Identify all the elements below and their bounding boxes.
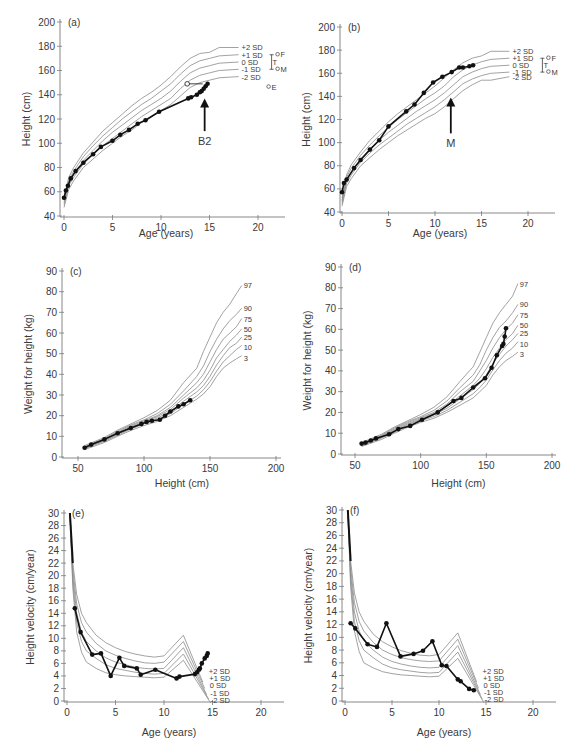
patient-data-point — [81, 160, 86, 165]
patient-data-point — [459, 396, 464, 401]
patient-data-point — [472, 688, 477, 693]
y-tick-label: 120 — [38, 114, 55, 125]
reference-curve — [362, 304, 518, 443]
reference-curve — [362, 315, 518, 444]
y-tick-label: 2 — [53, 683, 59, 694]
x-tick-label: 50 — [72, 463, 84, 474]
patient-data-point — [200, 661, 205, 666]
patient-data-point — [412, 102, 417, 107]
x-tick-label: 200 — [268, 463, 285, 474]
reference-curve — [342, 51, 509, 198]
y-tick-label: 80 — [44, 162, 56, 173]
reference-curve — [348, 510, 484, 703]
reference-curve — [64, 62, 239, 203]
reference-curve-label: -2 SD — [485, 695, 505, 704]
panel-letter: (c) — [70, 266, 82, 277]
patient-data-point — [139, 422, 144, 427]
x-tick-label: 5 — [113, 707, 119, 718]
patient-data-point — [449, 70, 454, 75]
reference-curve — [85, 286, 242, 446]
patient-growth-line — [351, 623, 474, 690]
patient-data-point — [168, 409, 173, 414]
y-tick-label: 60 — [324, 183, 336, 194]
patient-data-point — [135, 122, 140, 127]
patient-data-point — [483, 376, 488, 381]
expected-height-label: E — [272, 83, 277, 92]
x-tick-label: 100 — [136, 463, 153, 474]
patient-data-point — [422, 91, 427, 96]
patient-data-point — [369, 438, 374, 443]
patient-data-point — [188, 398, 193, 403]
patient-data-point — [82, 445, 87, 450]
y-tick-label: 70 — [325, 303, 337, 314]
patient-data-point — [78, 630, 83, 635]
patient-data-point — [421, 648, 426, 653]
y-tick-label: 2 — [331, 683, 337, 694]
reference-curve-label: 75 — [244, 315, 252, 324]
reference-curve — [362, 325, 518, 444]
x-tick-label: 0 — [339, 218, 345, 229]
y-axis-title: Height velocity (cm/year) — [302, 548, 314, 664]
y-axis-title: Weight for height (kg) — [22, 314, 34, 414]
patient-data-point — [489, 366, 494, 371]
patient-data-point — [358, 158, 363, 163]
y-tick-label: 80 — [324, 160, 336, 171]
y-tick-label: 22 — [48, 558, 60, 569]
reference-curve — [348, 510, 481, 695]
patient-data-point — [198, 666, 203, 671]
patient-data-point — [90, 652, 95, 657]
y-tick-label: 60 — [46, 328, 58, 339]
y-axis-title: Height velocity (cm/year) — [24, 549, 36, 665]
x-tick-label: 15 — [207, 707, 219, 718]
patient-data-point — [359, 441, 364, 446]
panel-letter: (f) — [350, 505, 359, 516]
x-tick-label: 20 — [527, 707, 539, 718]
patient-data-point — [352, 166, 357, 171]
father-label: F — [551, 54, 556, 63]
y-tick-label: 6 — [53, 658, 59, 669]
y-axis-title: Height (cm) — [20, 92, 32, 146]
patient-data-point — [471, 63, 476, 68]
y-tick-label: 12 — [48, 620, 60, 631]
y-tick-label: 60 — [44, 186, 56, 197]
mother-label: M — [281, 65, 287, 74]
patient-data-point — [163, 413, 168, 418]
y-tick-label: 6 — [331, 657, 337, 668]
patient-data-point — [64, 188, 69, 193]
x-tick-label: 20 — [252, 222, 264, 233]
y-tick-label: 160 — [38, 65, 55, 76]
patient-data-point — [153, 667, 158, 672]
y-tick-label: 80 — [46, 286, 58, 297]
x-tick-label: 15 — [480, 707, 492, 718]
reference-curve — [70, 513, 203, 682]
patient-data-point — [127, 128, 132, 133]
y-tick-label: 60 — [325, 324, 337, 335]
y-tick-label: 18 — [48, 583, 60, 594]
patient-data-point — [353, 626, 358, 631]
patient-data-point — [99, 145, 104, 150]
y-tick-label: 28 — [326, 517, 338, 528]
patient-data-point — [396, 427, 401, 432]
y-tick-label: 28 — [48, 520, 60, 531]
y-tick-label: 40 — [44, 211, 56, 222]
y-tick-label: 0 — [53, 696, 59, 707]
reference-curve-label: -2 SD — [211, 696, 231, 705]
y-tick-label: 18 — [326, 581, 338, 592]
y-tick-label: 12 — [326, 619, 338, 630]
patient-data-point — [143, 118, 148, 123]
y-tick-label: 40 — [325, 365, 337, 376]
patient-data-point — [375, 645, 380, 650]
patient-data-point — [66, 183, 71, 188]
reference-curve — [64, 69, 239, 205]
patient-data-point — [181, 402, 186, 407]
y-tick-label: 16 — [326, 594, 338, 605]
arrow-label: B2 — [198, 135, 211, 147]
patient-data-point — [73, 606, 78, 611]
patient-data-point — [365, 642, 370, 647]
reference-curve — [362, 284, 518, 443]
y-axis-title: Weight for height (kg) — [301, 310, 313, 410]
open-data-point — [185, 82, 190, 87]
y-tick-label: 22 — [326, 555, 338, 566]
panel-d: 010203040506070809050100150200Height (cm… — [301, 262, 561, 490]
patient-data-point — [504, 326, 509, 331]
